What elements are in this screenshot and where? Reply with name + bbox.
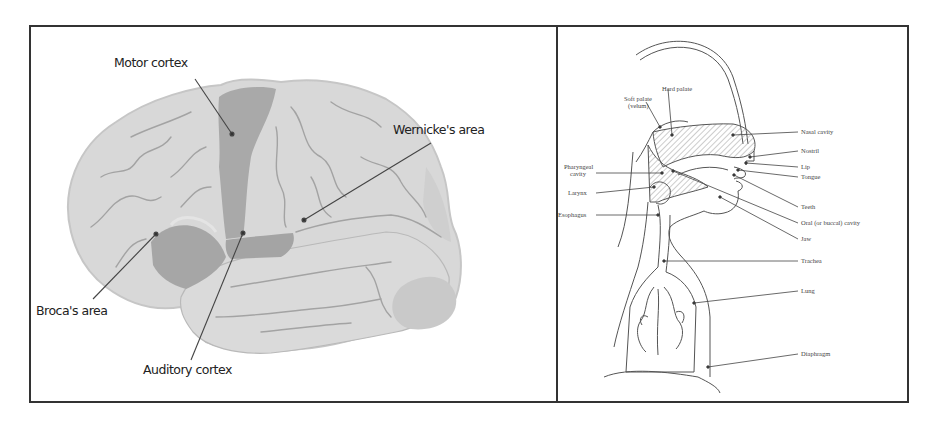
- label-wernickes-area: Wernicke's area: [393, 122, 484, 137]
- label-nasal-cavity: Nasal cavity: [801, 128, 833, 135]
- label-velum: (velum): [628, 102, 649, 109]
- vocal-tract-illustration: [558, 27, 907, 401]
- brain-illustration: [31, 27, 556, 401]
- label-motor-cortex: Motor cortex: [114, 55, 188, 70]
- label-cavity: cavity: [570, 170, 586, 177]
- label-tongue: Tongue: [801, 173, 820, 180]
- label-hard-palate: Hard palate: [662, 85, 692, 92]
- label-brocas-area: Broca's area: [36, 303, 107, 318]
- label-lung: Lung: [801, 287, 815, 294]
- label-lip: Lip: [801, 163, 810, 170]
- label-oral-cavity: Oral (or buccal) cavity: [801, 219, 860, 226]
- label-auditory-cortex: Auditory cortex: [143, 362, 232, 377]
- label-nostril: Nostril: [801, 147, 819, 154]
- brain-language-areas-diagram: Motor cortex Wernicke's area Broca's are…: [31, 27, 556, 401]
- speech-organs-diagram: Hard palate Soft palate (velum) Nasal ca…: [558, 27, 907, 401]
- label-trachea: Trachea: [801, 257, 822, 264]
- label-teeth: Teeth: [801, 203, 815, 210]
- label-larynx: Larynx: [568, 189, 587, 196]
- lung-outline: [626, 267, 696, 372]
- label-jaw: Jaw: [801, 235, 811, 242]
- label-diaphragm: Diaphragm: [801, 350, 830, 357]
- nasal-cavity-region: [653, 124, 755, 167]
- label-esophagus: Esophagus: [558, 211, 586, 218]
- label-pharyngeal: Pharyngeal: [564, 163, 593, 170]
- label-soft-palate: Soft palate: [624, 95, 652, 102]
